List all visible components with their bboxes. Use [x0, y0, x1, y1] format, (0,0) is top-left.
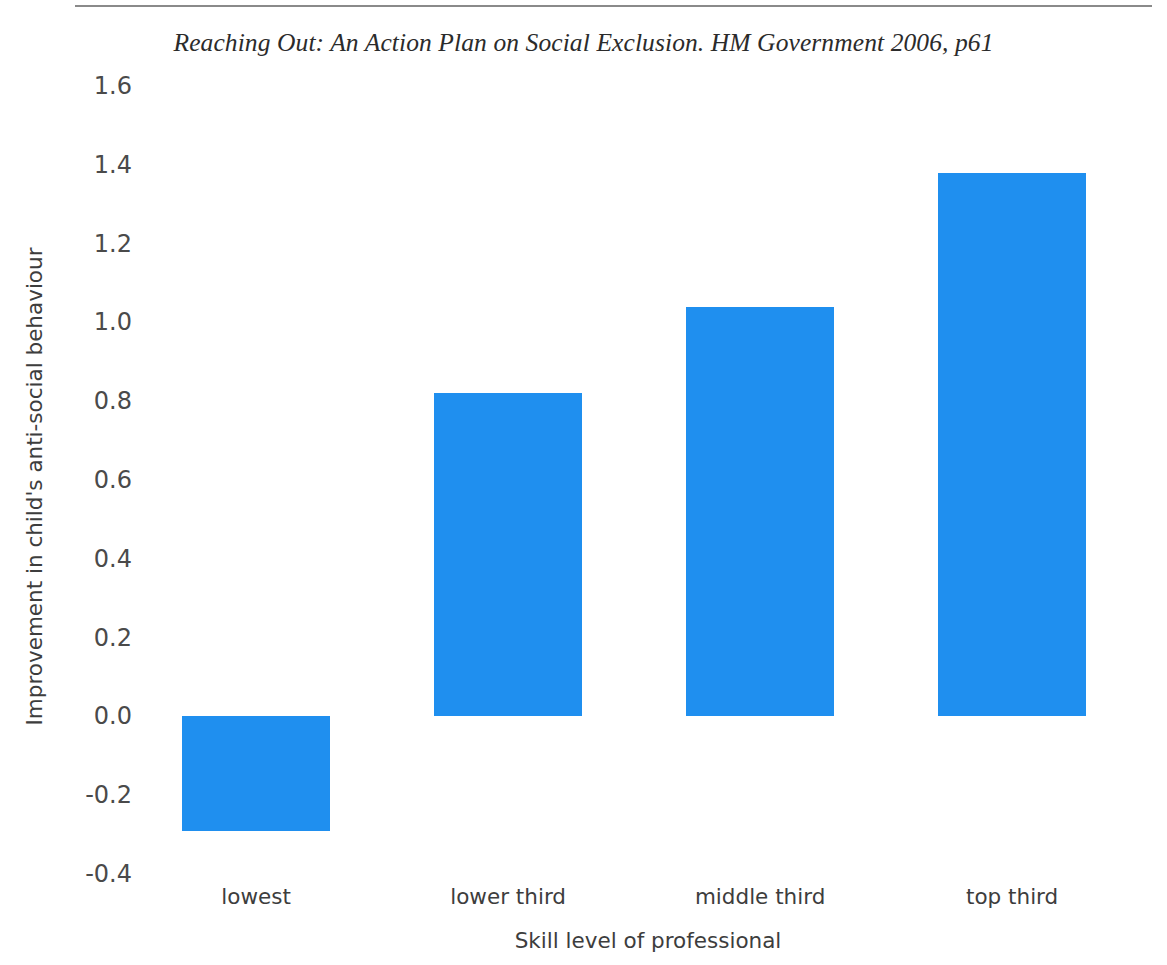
x-tick-label: top third: [966, 884, 1058, 909]
y-tick-label: 0.8: [0, 387, 132, 415]
x-tick-label: middle third: [695, 884, 825, 909]
y-tick-label: 1.4: [0, 151, 132, 179]
bar: [938, 173, 1085, 717]
y-tick-label: 0.4: [0, 545, 132, 573]
y-tick-label: -0.4: [0, 860, 132, 888]
y-axis-title: Improvement in child's anti-social behav…: [22, 227, 47, 747]
y-tick-label: 0.6: [0, 466, 132, 494]
bar: [686, 307, 833, 717]
x-axis-tick-labels: lowestlower thirdmiddle thirdtop third: [144, 884, 1152, 918]
y-axis-tick-labels: 1.61.41.21.00.80.60.40.20.0-0.2-0.4: [0, 86, 132, 874]
x-tick-label: lower third: [450, 884, 566, 909]
bar: [182, 716, 329, 830]
x-tick-label: lowest: [221, 884, 291, 909]
x-axis-title: Skill level of professional: [144, 928, 1152, 953]
y-tick-label: 1.6: [0, 72, 132, 100]
figure-caption: Reaching Out: An Action Plan on Social E…: [0, 28, 1167, 58]
y-tick-label: 1.2: [0, 230, 132, 258]
y-tick-label: 0.2: [0, 624, 132, 652]
bar: [434, 393, 581, 716]
y-tick-label: -0.2: [0, 781, 132, 809]
top-horizontal-rule: [75, 5, 1152, 7]
bars-container: [144, 86, 1152, 874]
chart-plot-area: [144, 86, 1152, 874]
y-tick-label: 0.0: [0, 702, 132, 730]
y-tick-label: 1.0: [0, 308, 132, 336]
